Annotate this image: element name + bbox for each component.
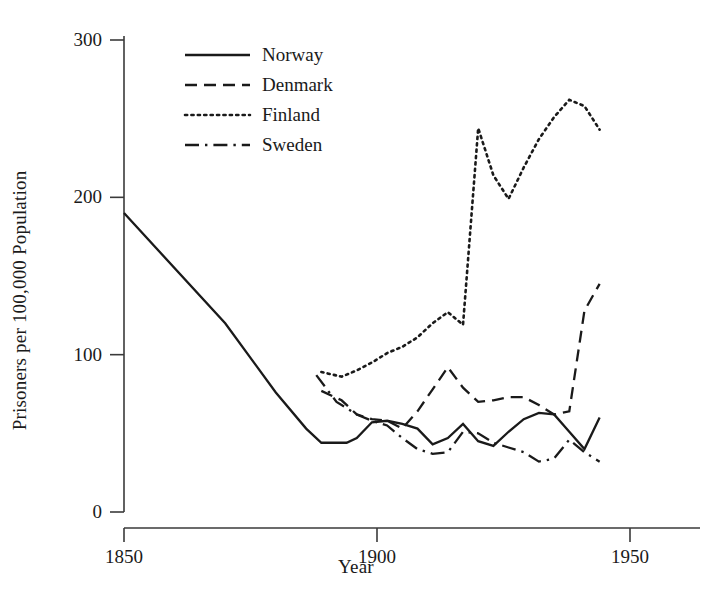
legend-label-sweden: Sweden	[262, 134, 322, 156]
y-tick-label: 0	[40, 501, 102, 523]
y-tick-label: 200	[40, 186, 102, 208]
legend-sample-lines	[185, 55, 250, 145]
legend-label-finland: Finland	[262, 104, 320, 126]
plot-area	[0, 0, 712, 607]
chart-figure: Prisoners per 100,000 Population Year 01…	[0, 0, 712, 607]
axis-lines	[124, 36, 700, 528]
x-tick-label: 1850	[105, 546, 143, 568]
y-axis-ticks	[110, 40, 124, 512]
series-line-norway	[124, 213, 600, 449]
y-tick-label: 300	[40, 29, 102, 51]
x-axis-ticks	[124, 528, 630, 542]
x-tick-label: 1900	[358, 546, 396, 568]
data-series-group	[124, 100, 600, 462]
series-line-finland	[321, 100, 599, 377]
legend-label-denmark: Denmark	[262, 74, 333, 96]
legend-label-norway: Norway	[262, 44, 323, 66]
y-tick-label: 100	[40, 344, 102, 366]
x-tick-label: 1950	[611, 546, 649, 568]
series-line-denmark	[321, 284, 599, 429]
